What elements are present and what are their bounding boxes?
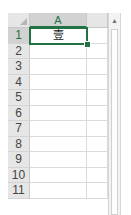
cell-a1[interactable]: 壹: [30, 28, 87, 44]
cell-a9[interactable]: [30, 152, 87, 168]
scroll-up-arrow-icon[interactable]: ▲: [109, 13, 120, 28]
cell-b4[interactable]: [87, 75, 108, 91]
row-header-6[interactable]: 6: [8, 106, 30, 122]
cell-b8[interactable]: [87, 137, 108, 153]
row-header-10[interactable]: 10: [8, 168, 30, 184]
column-header-b[interactable]: [87, 13, 108, 28]
row-header-2[interactable]: 2: [8, 44, 30, 60]
scrollbar-thumb[interactable]: [111, 29, 118, 215]
row-header-8[interactable]: 8: [8, 137, 30, 153]
select-all-corner[interactable]: [8, 13, 30, 28]
cell-a2[interactable]: [30, 44, 87, 60]
fill-handle[interactable]: [84, 41, 91, 48]
select-all-triangle-icon: [20, 18, 27, 25]
cell-a11[interactable]: [30, 183, 87, 199]
cell-b9[interactable]: [87, 152, 108, 168]
row-header-5[interactable]: 5: [8, 90, 30, 106]
row-header-7[interactable]: 7: [8, 121, 30, 137]
row-header-1[interactable]: 1: [8, 28, 30, 44]
cell-b5[interactable]: [87, 90, 108, 106]
cell-a3[interactable]: [30, 59, 87, 75]
cell-a8[interactable]: [30, 137, 87, 153]
vertical-scrollbar[interactable]: ▲: [108, 13, 121, 215]
cell-b3[interactable]: [87, 59, 108, 75]
cell-a7[interactable]: [30, 121, 87, 137]
column-header-a[interactable]: A: [30, 13, 87, 28]
row-header-4[interactable]: 4: [8, 75, 30, 91]
row-header-11[interactable]: 11: [8, 183, 30, 199]
cell-a10[interactable]: [30, 168, 87, 184]
cell-a6[interactable]: [30, 106, 87, 122]
cell-b10[interactable]: [87, 168, 108, 184]
row-header-3[interactable]: 3: [8, 59, 30, 75]
cell-b7[interactable]: [87, 121, 108, 137]
cell-a5[interactable]: [30, 90, 87, 106]
row-header-9[interactable]: 9: [8, 152, 30, 168]
cell-b11[interactable]: [87, 183, 108, 199]
cell-b6[interactable]: [87, 106, 108, 122]
cell-a4[interactable]: [30, 75, 87, 91]
